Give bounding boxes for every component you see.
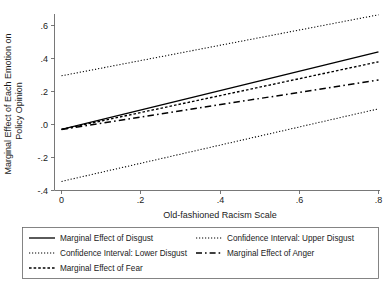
y-tick-label-4: -.2 (37, 153, 48, 163)
x-tick-label-0: 0 (59, 195, 64, 205)
legend-label-fear: Marginal Effect of Fear (60, 264, 143, 273)
legend-label-upper-ci: Confidence Interval: Upper Disgust (227, 234, 355, 243)
marginal-effects-chart: Marginal Effect of Each Emotion on Polic… (0, 0, 387, 283)
legend-label-anger: Marginal Effect of Anger (227, 249, 315, 258)
legend-label-disgust: Marginal Effect of Disgust (60, 234, 154, 243)
x-axis-title: Old-fashioned Racism Scale (163, 210, 277, 220)
y-tick-label-5: -.4 (37, 186, 48, 196)
y-axis-title-line1: Marginal Effect of Each Emotion on (3, 34, 13, 175)
y-tick-label-2: .2 (40, 87, 48, 97)
y-tick-label-0: .6 (40, 21, 48, 31)
legend-label-lower-ci: Confidence Interval: Lower Disgust (60, 249, 188, 258)
x-tick-label-4: .8 (375, 195, 383, 205)
y-tick-label-3: .0 (40, 120, 48, 130)
figure-container: Marginal Effect of Each Emotion on Polic… (0, 0, 387, 283)
x-tick-label-2: .4 (217, 195, 225, 205)
y-axis-title-line2: Policy Opinion (14, 82, 24, 140)
x-tick-label-3: .6 (296, 195, 304, 205)
x-tick-label-1: .2 (137, 195, 145, 205)
y-tick-label-1: .4 (40, 54, 48, 64)
